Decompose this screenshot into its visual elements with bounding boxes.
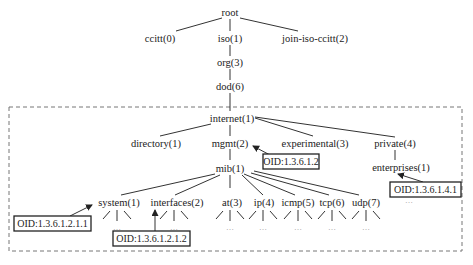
node-interfaces: interfaces(2) <box>150 197 204 209</box>
node-iso: iso(1) <box>218 33 243 45</box>
node-root: root <box>222 7 239 18</box>
svg-text:…: … <box>226 223 234 232</box>
leaf-fanouts <box>103 210 380 221</box>
oid-tree-diagram: … … … … … … … … root ccitt(0) iso(1) joi… <box>0 0 473 265</box>
node-experimental: experimental(3) <box>281 138 349 150</box>
node-tcp: tcp(6) <box>319 197 345 209</box>
node-joint-iso-ccitt: join-iso-ccitt(2) <box>281 33 348 45</box>
callout-arrows <box>70 146 423 231</box>
svg-text:OID:1.3.6.1.2.1.1: OID:1.3.6.1.2.1.1 <box>17 218 88 229</box>
node-ip: ip(4) <box>254 197 275 209</box>
node-mgmt: mgmt(2) <box>212 138 249 150</box>
node-enterprises: enterprises(1) <box>372 162 430 174</box>
svg-text:…: … <box>328 223 336 232</box>
node-org: org(3) <box>217 57 244 69</box>
node-private: private(4) <box>374 138 416 150</box>
callout-interfaces-oid: OID:1.3.6.1.2.1.2 <box>113 231 190 246</box>
node-icmp: icmp(5) <box>281 197 315 209</box>
callout-system-oid: OID:1.3.6.1.2.1.1 <box>14 216 91 231</box>
svg-text:…: … <box>259 223 267 232</box>
svg-text:OID:1.3.6.1.4.1: OID:1.3.6.1.4.1 <box>394 184 457 195</box>
svg-text:OID:1.3.6.1.2.1.2: OID:1.3.6.1.2.1.2 <box>116 233 187 244</box>
node-dod: dod(6) <box>216 81 244 93</box>
node-ccitt: ccitt(0) <box>145 33 176 45</box>
node-at: at(3) <box>222 197 242 209</box>
node-directory: directory(1) <box>131 138 182 150</box>
node-udp: udp(7) <box>352 197 380 209</box>
svg-text:OID:1.3.6.1.2: OID:1.3.6.1.2 <box>263 156 319 167</box>
svg-text:…: … <box>362 223 370 232</box>
callout-enterprises-oid: OID:1.3.6.1.4.1 <box>390 182 461 197</box>
callout-mgmt-oid: OID:1.3.6.1.2 <box>263 154 319 169</box>
node-mib: mib(1) <box>216 163 245 175</box>
node-system: system(1) <box>98 197 140 209</box>
svg-text:…: … <box>294 223 302 232</box>
node-internet: internet(1) <box>210 113 255 125</box>
